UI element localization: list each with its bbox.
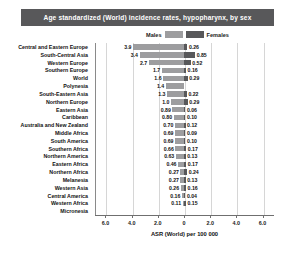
bar-males (166, 83, 184, 88)
legend-label-females: Females (207, 32, 229, 38)
axis-tick-label: 4.0 (128, 220, 136, 226)
axis-tick (132, 215, 133, 218)
bar-females (184, 99, 188, 104)
category-label: Micronesia (60, 207, 88, 215)
bar-females (184, 130, 185, 135)
bar-females (184, 68, 186, 73)
axis-tick (210, 215, 211, 218)
axis-tick-label: 6.0 (259, 220, 267, 226)
bar-females (184, 115, 185, 120)
bar-males (162, 68, 184, 73)
axis-tick-label: 4.0 (233, 220, 241, 226)
bar-females (184, 201, 186, 206)
bar-females (184, 154, 186, 159)
bar-males (175, 123, 184, 128)
axis-tick-label: 2.0 (206, 220, 214, 226)
bar-females (184, 91, 187, 96)
bar-males (175, 146, 184, 151)
x-axis-title: ASR (World) per 100 000 (95, 231, 274, 237)
table-row: Micronesia (0, 207, 293, 215)
bar-males (174, 115, 184, 120)
axis-tick (263, 215, 264, 218)
bar-females (184, 76, 188, 81)
bar-females (184, 123, 186, 128)
axis-tick-label: 6.0 (102, 220, 110, 226)
bar-females (184, 138, 185, 143)
bar-females (184, 52, 195, 57)
bar-females (184, 44, 187, 49)
bar-males (140, 52, 185, 57)
bar-males (133, 44, 184, 49)
axis-tick (158, 215, 159, 218)
legend-swatch-males (165, 31, 183, 38)
bar-males (175, 130, 184, 135)
axis-tick (236, 215, 237, 218)
legend-label-males: Males (146, 32, 162, 38)
axis-tick-label: 2.0 (154, 220, 162, 226)
bar-males (163, 76, 184, 81)
chart-title-banner: Age standardized (World) incidence rates… (21, 9, 274, 26)
bar-males (176, 154, 184, 159)
chart-root: Age standardized (World) incidence rates… (0, 0, 293, 260)
bar-females (184, 107, 185, 112)
bar-females (184, 146, 186, 151)
bar-males (167, 91, 184, 96)
axis-tick-label: 0 (183, 220, 186, 226)
axis-tick (105, 215, 106, 218)
bar-females (184, 162, 186, 167)
bar-females (184, 185, 186, 190)
bar-females (184, 193, 185, 198)
page-title: Age standardized (World) incidence rates… (44, 14, 252, 21)
chart-legend: Males Females (146, 30, 229, 39)
bar-females (184, 60, 191, 65)
bar-males (149, 60, 184, 65)
bar-males (172, 107, 184, 112)
bar-males (175, 138, 184, 143)
bar-females (184, 177, 186, 182)
bar-males (171, 99, 184, 104)
axis-tick (184, 215, 185, 218)
legend-swatch-females (186, 31, 204, 38)
bar-females (184, 169, 187, 174)
